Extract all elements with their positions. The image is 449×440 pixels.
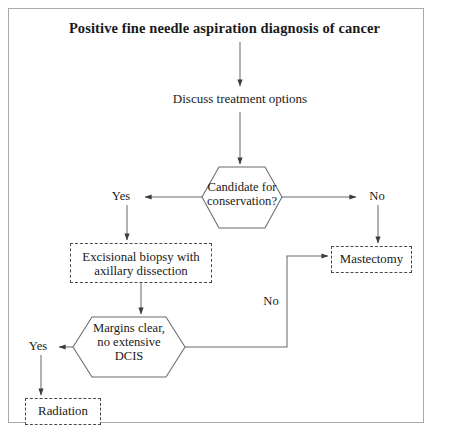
edge-label-no-margins: No: [258, 294, 284, 308]
flowchart-connectors: [0, 0, 449, 440]
node-decision-candidate-for-conservation: Candidate for conservation?: [196, 180, 288, 208]
edge-label-yes-conservation: Yes: [104, 189, 138, 203]
node-excisional-biopsy-label: Excisional biopsy with axillary dissecti…: [70, 250, 212, 279]
flowchart-title: Positive fine needle aspiration diagnosi…: [52, 20, 397, 36]
node-radiation-label: Radiation: [25, 404, 101, 418]
node-discuss-treatment-options: Discuss treatment options: [140, 92, 340, 107]
node-mastectomy-label: Mastectomy: [331, 252, 412, 266]
flowchart-canvas: Positive fine needle aspiration diagnosi…: [0, 0, 449, 440]
edge-label-no-conservation: No: [362, 189, 392, 203]
edge-label-yes-margins: Yes: [22, 339, 54, 353]
node-decision-margins-clear: Margins clear, no extensive DCIS: [80, 321, 178, 363]
